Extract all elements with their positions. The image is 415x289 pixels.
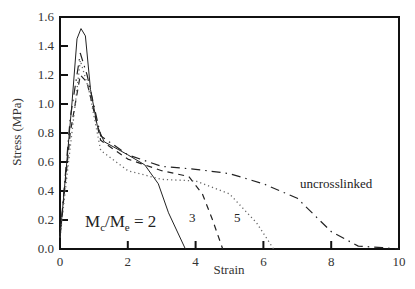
y-tick-label: 0.8: [38, 125, 54, 140]
y-tick-label: 0.6: [38, 154, 55, 169]
x-tick-label: 10: [393, 254, 406, 269]
label-mc-me-5: 5: [234, 210, 241, 225]
y-tick-label: 1.4: [38, 38, 55, 53]
x-tick-label: 2: [125, 254, 132, 269]
y-axis-title: Stress (MPa): [9, 98, 24, 166]
x-tick-label: 4: [192, 254, 199, 269]
y-tick-label: 1.6: [38, 9, 55, 24]
x-tick-label: 0: [57, 254, 64, 269]
y-tick-label: 0.4: [38, 183, 55, 198]
label-mc-me-2: Mc/Me = 2: [85, 212, 156, 233]
label-uncrosslinked: uncrosslinked: [300, 176, 373, 191]
stress-strain-chart: 0.00.20.40.60.81.01.21.41.6 0246810 Stra…: [0, 0, 415, 289]
x-tick-label: 6: [260, 254, 267, 269]
y-axis-ticks: 0.00.20.40.60.81.01.21.41.6: [38, 9, 68, 256]
y-tick-label: 0.0: [38, 241, 54, 256]
y-tick-label: 0.2: [38, 212, 54, 227]
x-tick-label: 8: [328, 254, 335, 269]
x-axis-title: Strain: [213, 262, 245, 277]
label-mc-me-3: 3: [189, 210, 196, 225]
y-tick-label: 1.2: [38, 67, 54, 82]
y-tick-label: 1.0: [38, 96, 54, 111]
